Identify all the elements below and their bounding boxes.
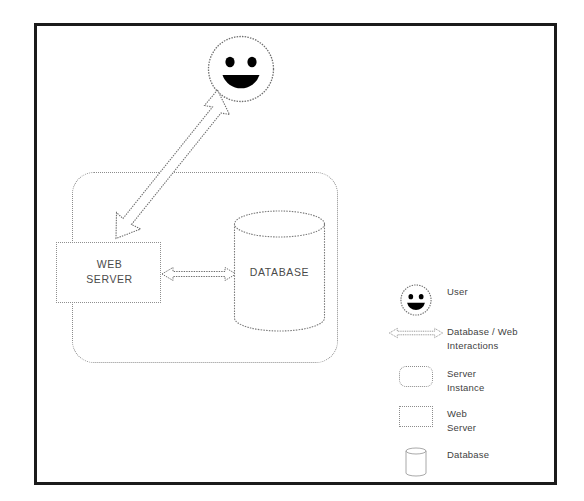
legend-label-server-instance: Server Instance xyxy=(447,366,485,394)
legend-item-server-instance: Server Instance xyxy=(385,366,550,394)
double-headed-horizontal-arrow-icon xyxy=(160,260,238,288)
legend: User Database / Web Interactions Server … xyxy=(385,284,550,474)
legend-item-web-server: Web Server xyxy=(385,406,550,434)
legend-item-database: Database xyxy=(385,447,550,477)
diagram-canvas: WEB SERVER DATABASE User xyxy=(0,0,584,501)
legend-item-user: User xyxy=(385,284,550,316)
legend-item-interactions: Database / Web Interactions xyxy=(385,324,550,352)
legend-icon-wrap xyxy=(385,366,447,387)
rectangle-icon xyxy=(399,406,433,427)
double-headed-diagonal-arrow-icon xyxy=(96,84,236,246)
rounded-rectangle-icon xyxy=(399,366,433,387)
legend-icon-wrap xyxy=(385,324,447,342)
legend-icon-wrap xyxy=(385,284,447,316)
legend-label-interactions: Database / Web Interactions xyxy=(447,324,518,352)
legend-label-database: Database xyxy=(447,447,489,462)
legend-icon-wrap xyxy=(385,447,447,477)
web-server-label: WEB SERVER xyxy=(57,257,162,287)
web-server-node: WEB SERVER xyxy=(56,242,161,303)
legend-icon-wrap xyxy=(385,406,447,427)
double-headed-arrow-icon xyxy=(388,324,444,342)
legend-label-web-server: Web Server xyxy=(447,406,476,434)
cylinder-icon xyxy=(405,447,427,477)
legend-label-user: User xyxy=(447,284,468,299)
database-label: DATABASE xyxy=(233,266,326,278)
smiley-face-icon xyxy=(400,284,432,316)
